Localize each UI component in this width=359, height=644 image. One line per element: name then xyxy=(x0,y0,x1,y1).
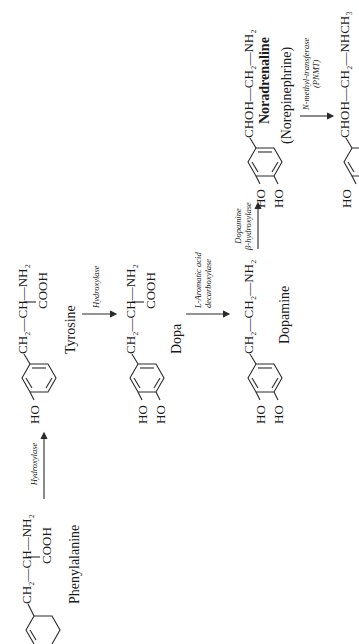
phenylalanine-cooh: COOH xyxy=(40,527,53,564)
enzyme-pnmt-line2: (PNMT) xyxy=(312,38,322,110)
dopamine-ho-1: HO xyxy=(254,405,267,424)
enzyme-beta-hydroxylase: Dopamine β-hydroxylase xyxy=(234,202,254,250)
dopa-label: Dopa xyxy=(170,324,184,354)
enzyme-decarboxylase-line2: decarboxylase xyxy=(204,252,214,308)
enzyme-beta-hydroxylase-line2: β-hydroxylase xyxy=(244,202,254,250)
tyrosine-cooh: COOH xyxy=(36,272,49,309)
enzyme-pnmt: N-methyl-transferase (PNMT) xyxy=(302,38,322,110)
noradrenaline-ho-1: HO xyxy=(254,189,267,208)
dopamine-chain: CH₂—CH₂—NH₂ xyxy=(242,260,255,355)
phenylalanine-chain: CH₂—CH—NH₂ xyxy=(20,514,33,604)
dopamine-ho-2: HO xyxy=(272,405,285,424)
tyrosine-ho: HO xyxy=(28,405,41,424)
phenylalanine-label: Phenylalanine xyxy=(68,525,82,604)
noradrenaline-label: Noradrenaline xyxy=(258,37,272,124)
enzyme-decarboxylase: L-Aromatic acid decarboxylase xyxy=(194,252,214,308)
dopa-ho-2: HO xyxy=(154,405,167,424)
noradrenaline-ho-2: HO xyxy=(272,189,285,208)
noradrenaline-chain: CHOH—CH₂—NH₂ xyxy=(242,29,255,138)
benzene-ring-adrenaline xyxy=(344,148,359,176)
dopamine-label: Dopamine xyxy=(278,286,292,344)
dopa-chain: CH₂—CH—NH₂ xyxy=(124,264,137,354)
adrenaline-ho: HO xyxy=(340,189,353,208)
enzyme-hydroxylase-1: Hydroxylase xyxy=(30,434,40,494)
tyrosine-label: Tyrosine xyxy=(64,305,78,354)
adrenaline-chain: CHOH—CH₂—NHCH₃ xyxy=(338,11,351,138)
norepinephrine-label: (Norepinephrine) xyxy=(280,47,294,144)
pathway-diagram: CH₂—CH—NH₂ COOH Phenylalanine Hydroxylas… xyxy=(0,0,359,644)
enzyme-hydroxylase-2: Hydroxylase xyxy=(92,265,102,308)
dopa-cooh: COOH xyxy=(144,272,157,309)
tyrosine-chain: CH₂—CH—NH₂ xyxy=(16,264,29,354)
benzene-ring-phenylalanine xyxy=(26,616,60,644)
dopa-ho-1: HO xyxy=(136,405,149,424)
